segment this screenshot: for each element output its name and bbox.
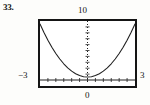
plot-svg xyxy=(40,21,135,86)
x-axis-max-label: 3 xyxy=(140,70,145,80)
figure-container: 33. 10 −3 3 0 xyxy=(0,0,150,105)
y-axis-min-label: 0 xyxy=(85,90,90,100)
x-axis-min-label: −3 xyxy=(18,70,28,80)
plot-viewing-window xyxy=(38,19,137,88)
y-axis-max-label: 10 xyxy=(78,5,87,15)
exercise-number-label: 33. xyxy=(3,2,14,12)
y-axis-group xyxy=(86,21,90,83)
